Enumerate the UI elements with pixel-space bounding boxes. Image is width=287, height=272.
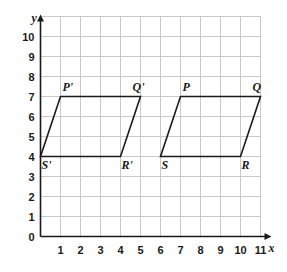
vertex-label-R: R bbox=[242, 159, 250, 171]
x-tick-5: 5 bbox=[132, 244, 150, 256]
y-axis-label: y bbox=[32, 11, 37, 26]
y-tick-7: 7 bbox=[17, 91, 35, 103]
plot-canvas bbox=[0, 0, 287, 272]
x-tick-9: 9 bbox=[212, 244, 230, 256]
vertex-label-P-prime: P' bbox=[63, 81, 74, 93]
y-tick-8: 8 bbox=[17, 71, 35, 83]
vertex-label-S-prime: S' bbox=[42, 159, 52, 171]
y-tick-3: 3 bbox=[17, 171, 35, 183]
x-tick-3: 3 bbox=[92, 244, 110, 256]
x-tick-1: 1 bbox=[52, 244, 70, 256]
x-tick-7: 7 bbox=[172, 244, 190, 256]
axes bbox=[37, 15, 272, 241]
vertex-label-P: P bbox=[183, 81, 190, 93]
coordinate-plane-figure: 012345678910 1234567891011 y x P'Q'R'S'P… bbox=[0, 0, 287, 272]
y-tick-9: 9 bbox=[17, 51, 35, 63]
x-tick-11: 11 bbox=[252, 244, 270, 256]
y-tick-10: 10 bbox=[17, 31, 35, 43]
parallelogram-preimage bbox=[161, 97, 261, 157]
y-tick-1: 1 bbox=[17, 211, 35, 223]
grid-lines bbox=[41, 17, 261, 237]
vertex-label-Q-prime: Q' bbox=[133, 81, 145, 93]
x-axis-label: x bbox=[269, 241, 275, 256]
x-tick-4: 4 bbox=[112, 244, 130, 256]
y-tick-4: 4 bbox=[17, 151, 35, 163]
vertex-label-R-prime: R' bbox=[122, 159, 133, 171]
x-tick-2: 2 bbox=[72, 244, 90, 256]
vertex-label-Q: Q bbox=[253, 81, 262, 93]
y-tick-2: 2 bbox=[17, 191, 35, 203]
x-tick-6: 6 bbox=[152, 244, 170, 256]
y-tick-5: 5 bbox=[17, 131, 35, 143]
y-tick-0: 0 bbox=[17, 231, 35, 243]
x-tick-10: 10 bbox=[232, 244, 250, 256]
parallelogram-image bbox=[41, 97, 141, 157]
x-tick-8: 8 bbox=[192, 244, 210, 256]
shapes bbox=[41, 97, 261, 157]
vertex-label-S: S bbox=[162, 159, 169, 171]
y-tick-6: 6 bbox=[17, 111, 35, 123]
